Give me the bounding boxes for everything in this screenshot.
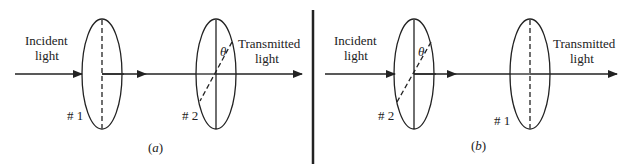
theta-label: θ [418, 44, 425, 59]
incident-label-line1: Incident [25, 33, 68, 48]
transmitted-label-line2: light [570, 51, 594, 66]
polarizer-2-label: # 2 [182, 108, 198, 123]
transmitted-label-line1: Transmitted [553, 36, 616, 51]
polarizer-1-label: # 1 [67, 108, 83, 123]
incident-label-line2: light [344, 48, 368, 63]
polarizer-1 [82, 19, 124, 129]
polarizer-2-label: # 2 [378, 108, 394, 123]
panel-b-caption: (b) [471, 138, 486, 153]
incident-label-line2: light [35, 48, 59, 63]
theta-label: θ [220, 44, 227, 59]
transmitted-label-line1: Transmitted [238, 36, 301, 51]
panel-a: # 1 θ # 2 Incident light Transmitted lig… [15, 19, 302, 155]
polarizer-1-label: # 1 [494, 113, 510, 128]
polarizer-2 [394, 19, 436, 129]
caption-a-text: (a) [148, 140, 163, 155]
polarizer-diagram: # 1 θ # 2 Incident light Transmitted lig… [0, 0, 626, 168]
transmitted-label-line2: light [255, 51, 279, 66]
incident-label-line1: Incident [334, 33, 377, 48]
panel-a-caption: (a) [148, 140, 163, 155]
caption-b-text: (b) [471, 138, 486, 153]
panel-b: θ # 2 # 1 Incident light Transmitted lig… [325, 19, 617, 153]
